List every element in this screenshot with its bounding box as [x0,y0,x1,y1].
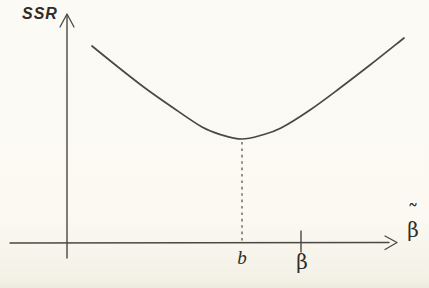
y-axis-label: SSR [22,5,58,23]
plot-canvas [0,0,429,288]
beta-tick-label: β [296,250,308,274]
beta-base: β [407,219,419,241]
x-axis [10,243,389,244]
ssr-minimization-figure: SSR b β ˜ β [0,0,429,288]
ssr-curve [92,38,404,139]
minimum-label: b [237,247,247,269]
x-axis-label: ˜ β [407,209,419,241]
